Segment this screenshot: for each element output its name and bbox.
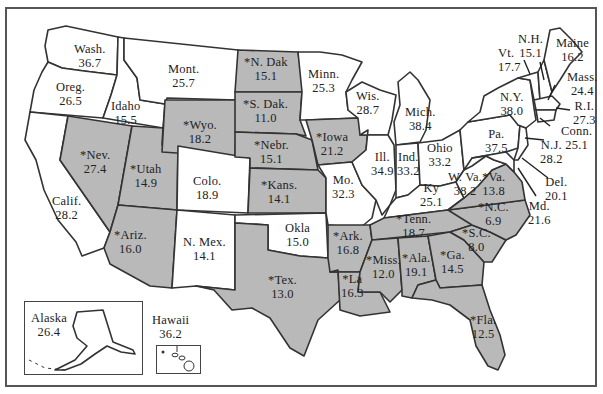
label-ri: R.I.27.3 [573, 99, 596, 127]
label-mont: Mont.25.7 [168, 62, 199, 90]
label-nj: N.J.28.2 [540, 138, 563, 166]
label-nebr: *Nebr.15.1 [254, 138, 289, 166]
label-va: *Va.13.8 [482, 170, 505, 198]
hawaii-islands [157, 346, 201, 374]
label-ohio: Ohio33.2 [427, 141, 453, 169]
label-la: *La16.3 [341, 272, 364, 300]
label-idaho: Idaho15.5 [111, 99, 140, 127]
label-ala: *Ala.19.1 [402, 251, 430, 279]
label-nc: *N.C.6.9 [478, 200, 509, 228]
label-wyo: *Wyo.18.2 [183, 118, 217, 146]
label-tex: *Tex.13.0 [268, 273, 297, 301]
label-md: Md.21.6 [528, 199, 551, 227]
label-fla: *Fla.12.5 [470, 313, 496, 341]
label-ny: N.Y.38.0 [500, 90, 524, 118]
label-conn: Conn.25.1 [561, 124, 592, 152]
label-mo: Mo.32.3 [332, 173, 355, 201]
label-minn: Minn.25.3 [308, 67, 339, 95]
label-ariz: *Ariz.16.0 [114, 228, 147, 256]
label-ill: Ill.34.9 [371, 150, 394, 178]
hawaii-inset [156, 345, 201, 374]
label-maine: Maine16.2 [556, 36, 589, 64]
label-oreg: Oreg.26.5 [56, 80, 85, 108]
label-colo: Colo.18.9 [193, 174, 221, 202]
label-wis: Wis.28.7 [356, 89, 380, 117]
label-miss: *Miss.12.0 [366, 253, 401, 281]
label-sc: *S.C.8.0 [462, 226, 491, 254]
label-sdak: *S. Dak.11.0 [243, 97, 288, 125]
label-calif: Calif.28.2 [52, 194, 81, 222]
label-nh: N.H.15.1 [518, 32, 543, 60]
state-conn [536, 110, 556, 122]
label-ndak: *N. Dak15.1 [244, 55, 288, 83]
label-ky: Ky25.1 [420, 181, 443, 209]
label-ind: Ind.33.2 [397, 150, 420, 178]
label-kans: *Kans.14.1 [261, 178, 297, 206]
label-mich: Mich.38.4 [405, 105, 436, 133]
label-ark: *Ark.16.8 [333, 229, 363, 257]
label-hawaii: Hawaii36.2 [152, 313, 189, 341]
label-wva: W. Va.38.2 [448, 170, 482, 198]
label-mass: Mass.24.4 [567, 70, 598, 98]
label-alaska: Alaska26.4 [31, 311, 67, 339]
label-wash: Wash.36.7 [74, 42, 106, 70]
label-utah: *Utah14.9 [130, 162, 162, 190]
label-tenn: *Tenn.18.7 [396, 212, 431, 240]
label-iowa: *Iowa21.2 [316, 130, 348, 158]
label-nev: *Nev.27.4 [80, 148, 110, 176]
label-pa: Pa.37.5 [485, 127, 508, 155]
label-okla: Okla15.0 [285, 221, 310, 249]
label-nmex: N. Mex.14.1 [183, 235, 226, 263]
